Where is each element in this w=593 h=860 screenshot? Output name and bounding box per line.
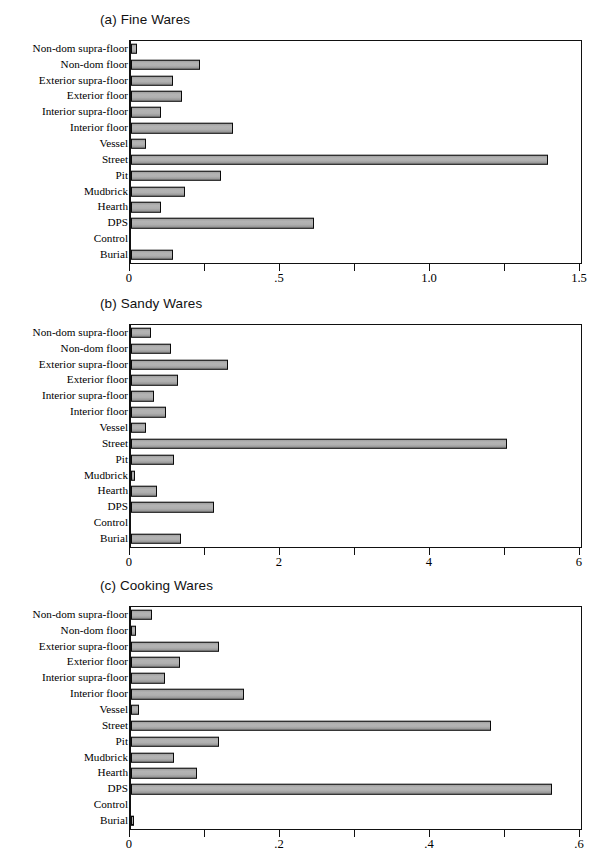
bar-row: Street: [131, 436, 581, 452]
axis-tick: [279, 830, 280, 837]
category-label: DPS: [107, 218, 128, 229]
category-label: Interior floor: [70, 407, 128, 418]
category-label: Interior supra-floor: [42, 107, 128, 118]
category-label: Vessel: [99, 704, 128, 715]
category-label: Interior floor: [70, 123, 128, 134]
bar: [131, 816, 134, 827]
bar-row: Exterior floor: [131, 655, 581, 671]
category-label: DPS: [107, 784, 128, 795]
axis-tick: [579, 264, 580, 271]
bar: [131, 768, 197, 779]
category-label: Mudbrick: [84, 752, 128, 763]
bar: [131, 439, 507, 450]
category-label: Vessel: [99, 422, 128, 433]
axis-tick: [504, 264, 505, 271]
category-label: Mudbrick: [84, 186, 128, 197]
bar: [131, 673, 165, 684]
bar-row: Exterior floor: [131, 373, 581, 389]
bar-row: Exterior floor: [131, 89, 581, 105]
category-label: Mudbrick: [84, 470, 128, 481]
category-label: Control: [94, 233, 128, 244]
category-label: Non-dom supra-floor: [33, 609, 128, 620]
bar-row: Interior floor: [131, 404, 581, 420]
axis-tick: [279, 548, 280, 555]
bar: [131, 641, 219, 652]
axis-tick: [429, 264, 430, 271]
category-label: Exterior supra-floor: [39, 75, 128, 86]
plot-area: Non-dom supra-floorNon-dom floorExterior…: [129, 606, 582, 830]
bar-row: Interior supra-floor: [131, 104, 581, 120]
bar-row: Burial: [131, 247, 581, 263]
bar: [131, 657, 180, 668]
bar-row: DPS: [131, 499, 581, 515]
axis-tick: [354, 548, 355, 555]
axis-tick: [504, 548, 505, 555]
bar-row: Non-dom supra-floor: [131, 325, 581, 341]
axis-tick: [579, 548, 580, 555]
plot-area: Non-dom supra-floorNon-dom floorExterior…: [129, 40, 582, 264]
category-label: Hearth: [98, 486, 128, 497]
panel-title: (c) Cooking Wares: [100, 578, 213, 593]
bar-row: Non-dom supra-floor: [131, 607, 581, 623]
category-label: Pit: [116, 454, 128, 465]
bar: [131, 60, 200, 71]
axis-tick-label: 2: [276, 556, 282, 569]
category-label: Burial: [100, 249, 128, 260]
axis-tick-label: .2: [274, 838, 283, 851]
bar: [131, 705, 139, 716]
bar-row: Mudbrick: [131, 750, 581, 766]
bar-row: Pit: [131, 734, 581, 750]
bar: [131, 736, 219, 747]
axis-tick-label: 0: [126, 838, 132, 851]
axis-tick-label: 6: [576, 556, 582, 569]
figure-root: (a) Fine Wares Non-dom supra-floorNon-do…: [0, 0, 593, 860]
category-label: Exterior supra-floor: [39, 359, 128, 370]
bar-row: Street: [131, 718, 581, 734]
bar-row: Vessel: [131, 420, 581, 436]
bar: [131, 344, 171, 355]
x-axis: 0246: [129, 548, 579, 574]
bar: [131, 454, 174, 465]
axis-tick: [354, 830, 355, 837]
category-label: Hearth: [98, 768, 128, 779]
bar: [131, 470, 135, 481]
bar: [131, 123, 233, 134]
category-label: Vessel: [99, 138, 128, 149]
bar-row: Exterior supra-floor: [131, 357, 581, 373]
axis-tick-label: 0: [126, 556, 132, 569]
category-label: Exterior supra-floor: [39, 641, 128, 652]
bar: [131, 375, 178, 386]
axis-tick: [429, 830, 430, 837]
bar-row: Hearth: [131, 765, 581, 781]
bar-row: Vessel: [131, 136, 581, 152]
bar-row: Interior supra-floor: [131, 388, 581, 404]
category-label: Pit: [116, 170, 128, 181]
category-label: Exterior floor: [67, 91, 128, 102]
category-label: Non-dom floor: [61, 343, 128, 354]
bar-row: Non-dom supra-floor: [131, 41, 581, 57]
bar-row: Burial: [131, 531, 581, 547]
bar: [131, 486, 157, 497]
bar-row: Hearth: [131, 199, 581, 215]
axis-tick: [204, 548, 205, 555]
bar-row: Non-dom floor: [131, 623, 581, 639]
category-label: Burial: [100, 815, 128, 826]
bar-row: DPS: [131, 215, 581, 231]
x-axis: 0.51.01.5: [129, 264, 579, 290]
axis-tick: [279, 264, 280, 271]
axis-tick-label: .6: [574, 838, 583, 851]
bar-row: Interior floor: [131, 686, 581, 702]
bar-row: Exterior supra-floor: [131, 73, 581, 89]
bar-row: Non-dom floor: [131, 341, 581, 357]
bar-row: Non-dom floor: [131, 57, 581, 73]
axis-tick: [354, 264, 355, 271]
category-label: Non-dom supra-floor: [33, 43, 128, 54]
panel-title: (a) Fine Wares: [100, 12, 190, 27]
bar: [131, 626, 136, 637]
category-label: Interior floor: [70, 689, 128, 700]
axis-tick-label: 1.0: [421, 272, 437, 285]
bar-row: Hearth: [131, 483, 581, 499]
category-label: Street: [102, 438, 128, 449]
bar: [131, 752, 174, 763]
axis-tick-label: 4: [426, 556, 432, 569]
